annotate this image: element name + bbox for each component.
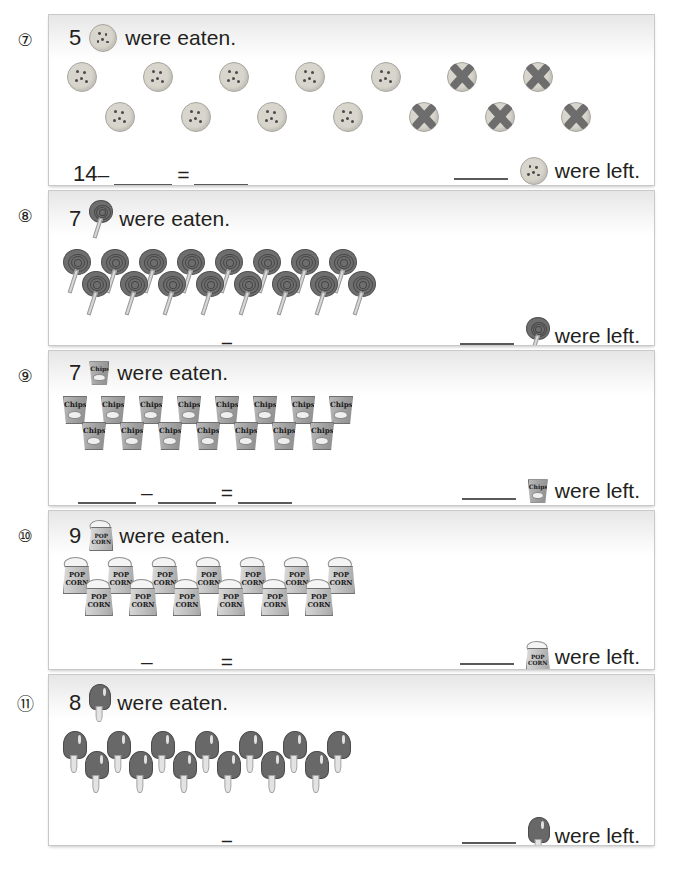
popsicle-icon — [261, 751, 283, 792]
popsicle-icon — [283, 731, 305, 772]
countable-item: POPCORN — [85, 579, 111, 616]
popcorn-icon: POPCORN — [261, 579, 287, 616]
countable-item: Chips — [82, 422, 106, 450]
equation-row: –=Chipswere left. — [49, 470, 654, 504]
answer-blank-remaining[interactable] — [462, 827, 516, 844]
countable-item — [348, 271, 374, 317]
problem-prompt: 9POPCORNwere eaten. — [49, 511, 654, 551]
chips-label: Chips — [235, 426, 257, 435]
item-group — [49, 58, 654, 144]
countable-item — [217, 751, 239, 792]
answer-blank-remaining[interactable] — [460, 328, 514, 345]
answer-blank-difference[interactable] — [238, 340, 292, 347]
cross-out-mark — [407, 100, 442, 135]
answer-blank-subtrahend[interactable] — [158, 487, 216, 504]
problem-panel: 5were eaten.14–=were left. — [48, 14, 655, 186]
equals-sign: = — [221, 651, 233, 670]
item-group: ChipsChipsChipsChipsChipsChipsChipsChips… — [49, 394, 654, 480]
popsicle-icon — [239, 731, 261, 772]
cross-out-mark — [559, 100, 594, 135]
cookie-icon — [523, 62, 553, 92]
cookie-icon — [447, 62, 477, 92]
cookie-icon — [257, 102, 287, 132]
worksheet-page: ⑦5were eaten.14–=were left.⑧7were eaten.… — [0, 0, 675, 876]
countable-item: POPCORN — [261, 579, 287, 616]
equation-row: –=POPCORNwere left. — [49, 639, 654, 670]
popcorn-icon: POPCORN — [89, 520, 111, 551]
countable-item: Chips — [196, 422, 220, 450]
cookie-icon — [485, 102, 515, 132]
countable-item — [105, 102, 135, 132]
problem-prompt: 5were eaten. — [49, 15, 654, 52]
popsicle-icon — [528, 817, 548, 846]
left-text: were left. — [555, 479, 640, 503]
countable-item — [447, 62, 477, 92]
popcorn-label: POPCORN — [90, 533, 112, 545]
answer-blank-minuend[interactable] — [78, 340, 136, 347]
countable-item — [257, 102, 287, 132]
countable-item: Chips — [120, 422, 144, 450]
countable-item: Chips — [234, 422, 258, 450]
countable-item — [295, 62, 325, 92]
minus-sign: – — [141, 335, 153, 347]
popsicle-icon — [151, 731, 173, 772]
chips-icon: Chips — [120, 422, 144, 450]
countable-item — [120, 271, 146, 317]
countable-item — [67, 62, 97, 92]
answer-blank-subtrahend[interactable] — [158, 838, 216, 846]
prompt-text: were eaten. — [119, 207, 230, 231]
equals-sign: = — [177, 164, 189, 186]
chips-label: Chips — [140, 400, 162, 409]
answer-blank-remaining[interactable] — [460, 648, 514, 665]
popsicle-icon — [129, 751, 151, 792]
countable-item — [523, 62, 553, 92]
countable-item: Chips — [158, 422, 182, 450]
eaten-count: 5 — [69, 25, 81, 51]
left-text: were left. — [555, 324, 640, 346]
answer-blank-minuend[interactable] — [78, 838, 136, 846]
answer-blank-difference[interactable] — [238, 487, 292, 504]
equals-sign: = — [221, 482, 233, 504]
answer-blank-remaining[interactable] — [454, 163, 508, 180]
answer-blank-difference[interactable] — [194, 169, 248, 186]
lollipop-icon — [234, 271, 260, 317]
popsicle-icon — [85, 751, 107, 792]
answer-blank-subtrahend[interactable] — [158, 340, 216, 347]
cookie-icon — [105, 102, 135, 132]
chips-label: Chips — [178, 400, 200, 409]
countable-item — [305, 751, 327, 792]
popcorn-label: POPCORN — [218, 594, 244, 608]
prompt-text: were eaten. — [117, 361, 228, 385]
countable-item: POPCORN — [217, 579, 243, 616]
answer-blank-difference[interactable] — [238, 838, 292, 846]
chips-icon: Chips — [177, 396, 201, 424]
equation-row: –=were left. — [49, 821, 654, 846]
answer-blank-subtrahend[interactable] — [114, 169, 172, 186]
equals-sign: = — [221, 833, 233, 846]
chips-icon: Chips — [272, 422, 296, 450]
popcorn-label: POPCORN — [130, 594, 156, 608]
answer-blank-remaining[interactable] — [462, 483, 516, 500]
countable-item — [143, 62, 173, 92]
chips-icon: Chips — [101, 396, 125, 424]
problem-panel: 7were eaten.–=were left. — [48, 190, 655, 346]
answer-blank-difference[interactable] — [238, 656, 292, 670]
eaten-count: 8 — [69, 690, 81, 716]
remaining-statement: were left. — [457, 817, 640, 846]
chips-label: Chips — [330, 400, 352, 409]
countable-item: Chips — [310, 422, 334, 450]
minus-sign: – — [141, 651, 153, 670]
cookie-icon — [89, 24, 117, 52]
answer-blank-minuend[interactable] — [78, 656, 136, 670]
popcorn-label: POPCORN — [262, 594, 288, 608]
cookie-icon — [295, 62, 325, 92]
cookie-icon — [219, 62, 249, 92]
answer-blank-minuend[interactable] — [78, 487, 136, 504]
chips-icon: Chips — [329, 396, 353, 424]
popsicle-icon — [195, 731, 217, 772]
equation-minuend: 14 — [73, 163, 97, 186]
cross-out-mark — [445, 60, 480, 95]
answer-blank-subtrahend[interactable] — [158, 656, 216, 670]
popcorn-icon: POPCORN — [173, 579, 199, 616]
chips-icon: Chips — [89, 361, 109, 385]
